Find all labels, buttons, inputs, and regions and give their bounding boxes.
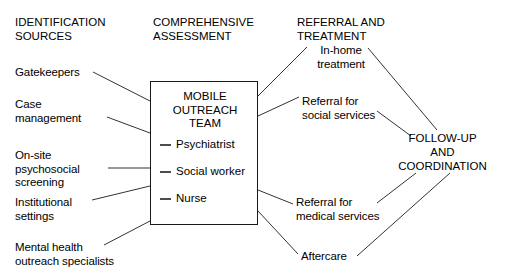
- outcome-referral-medical-services: Referral for medical services: [296, 196, 379, 223]
- column-heading-identification-sources: IDENTIFICATION SOURCES: [15, 15, 106, 43]
- source-mental-health-outreach-specialists: Mental health outreach specialists: [15, 241, 114, 268]
- source-on-site-psychosocial-screening: On-site psychosocial screening: [15, 149, 80, 190]
- team-member-psychiatrist: Psychiatrist: [160, 138, 235, 152]
- source-gatekeepers: Gatekeepers: [15, 66, 80, 80]
- source-case-management: Case management: [15, 98, 81, 125]
- connector-team-to-in-home-treatment: [258, 47, 307, 96]
- column-heading-referral-and-treatment: REFERRAL AND TREATMENT: [297, 15, 385, 43]
- team-member-label: Nurse: [176, 192, 207, 206]
- outcome-in-home-treatment: In-home treatment: [310, 44, 372, 71]
- flow-diagram: IDENTIFICATION SOURCES COMPREHENSIVE ASS…: [0, 0, 505, 277]
- connector-team-to-aftercare: [258, 211, 298, 254]
- column-heading-comprehensive-assessment: COMPREHENSIVE ASSESSMENT: [153, 15, 254, 43]
- bullet-dash-icon: [160, 144, 171, 146]
- team-member-nurse: Nurse: [160, 192, 207, 206]
- connector-case-management-to-team: [107, 117, 150, 133]
- outcome-referral-social-services: Referral for social services: [302, 95, 375, 122]
- team-member-label: Psychiatrist: [176, 138, 235, 152]
- follow-up-and-coordination: FOLLOW-UP AND COORDINATION: [380, 131, 505, 173]
- source-institutional-settings: Institutional settings: [15, 196, 72, 223]
- connector-team-to-referral-social-services: [258, 97, 299, 116]
- mobile-outreach-team-title: MOBILE OUTREACH TEAM: [151, 90, 259, 131]
- mobile-outreach-team-box: MOBILE OUTREACH TEAM Psychiatrist Social…: [150, 81, 258, 225]
- connector-in-home-treatment-to-hub: [368, 48, 437, 130]
- connector-referral-medical-services-to-hub: [377, 173, 416, 203]
- team-member-label: Social worker: [176, 165, 245, 179]
- outcome-aftercare: Aftercare: [301, 250, 347, 264]
- team-member-social-worker: Social worker: [160, 165, 245, 179]
- connector-team-to-referral-medical-services: [258, 190, 293, 204]
- bullet-dash-icon: [160, 198, 171, 200]
- bullet-dash-icon: [160, 171, 171, 173]
- connector-gatekeepers-to-team: [93, 72, 150, 101]
- connector-institutional-settings-to-team: [92, 186, 150, 200]
